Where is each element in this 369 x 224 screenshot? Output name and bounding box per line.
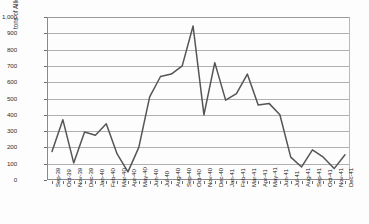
y-tick-label-600: 600 — [0, 79, 17, 85]
x-tick-label-Jun-41: Jun-41 — [282, 169, 289, 187]
x-tick-label-Mar-41: Mar-41 — [250, 168, 257, 187]
x-tick-mark-May-40 — [139, 181, 140, 184]
x-tick-label-Jan-41: Jan-41 — [228, 169, 235, 187]
x-tick-label-Nov-40: Nov-40 — [206, 168, 213, 187]
x-tick-mark-Jun-41 — [280, 181, 281, 184]
x-tick-label-Sep-40: Sep-40 — [185, 168, 192, 187]
x-tick-mark-Oct-40 — [193, 181, 194, 184]
y-tick-label-0: 0 — [0, 177, 17, 183]
x-tick-mark-Nov-41 — [334, 181, 335, 184]
x-tick-label-Dec-41: Dec-41 — [347, 168, 354, 187]
x-tick-label-Jul-40: Jul-40 — [163, 171, 170, 187]
plot-area — [47, 17, 350, 180]
x-tick-mark-Nov-40 — [204, 181, 205, 184]
y-tick-label-900: 900 — [0, 30, 17, 36]
x-tick-label-Sep-41: Sep-41 — [315, 168, 322, 187]
x-tick-label-Dec-40: Dec-40 — [217, 168, 224, 187]
x-tick-label-Nov-41: Nov-41 — [337, 168, 344, 187]
x-tick-mark-Oct-39 — [63, 181, 64, 184]
y-tick-label-800: 800 — [0, 47, 17, 53]
line-chart: tons of Allied and neutral shipping sunk… — [0, 0, 369, 224]
x-tick-mark-Mar-40 — [117, 181, 118, 184]
x-tick-mark-Jan-40 — [95, 181, 96, 184]
y-tick-label-100: 100 — [0, 161, 17, 167]
x-tick-mark-Apr-40 — [128, 181, 129, 184]
y-tick-label-700: 700 — [0, 63, 17, 69]
x-tick-mark-Mar-41 — [247, 181, 248, 184]
data-series-svg — [47, 17, 350, 180]
x-tick-mark-Dec-40 — [215, 181, 216, 184]
x-tick-mark-Jul-40 — [161, 181, 162, 184]
y-tick-label-300: 300 — [0, 128, 17, 134]
x-tick-label-Aug-41: Aug-41 — [304, 168, 311, 187]
x-tick-label-Jun-40: Jun-40 — [152, 169, 159, 187]
x-tick-label-May-40: May-40 — [141, 167, 148, 187]
x-tick-mark-Jun-40 — [150, 181, 151, 184]
x-tick-label-Apr-41: Apr-41 — [261, 169, 268, 187]
x-tick-mark-Nov-39 — [74, 181, 75, 184]
x-tick-label-Oct-39: Oct-39 — [65, 169, 72, 187]
shipping-losses-line — [52, 26, 345, 172]
x-tick-mark-Dec-39 — [85, 181, 86, 184]
y-tick-label-400: 400 — [0, 112, 17, 118]
x-tick-label-Oct-41: Oct-41 — [326, 169, 333, 187]
x-tick-label-Aug-40: Aug-40 — [174, 168, 181, 187]
y-axis-title-container: tons of Allied and neutral shipping sunk — [18, 17, 30, 180]
x-tick-mark-Sep-41 — [312, 181, 313, 184]
x-tick-label-Nov-39: Nov-39 — [76, 168, 83, 187]
x-tick-label-Mar-40: Mar-40 — [120, 168, 127, 187]
x-tick-mark-May-41 — [269, 181, 270, 184]
x-tick-mark-Apr-41 — [258, 181, 259, 184]
x-tick-label-Jan-40: Jan-40 — [98, 169, 105, 187]
x-tick-label-Jul-41: Jul-41 — [293, 171, 300, 187]
x-tick-mark-Jan-41 — [226, 181, 227, 184]
x-tick-mark-Sep-39 — [52, 181, 53, 184]
x-tick-mark-Jul-41 — [291, 181, 292, 184]
x-tick-label-Sep-39: Sep-39 — [54, 168, 61, 187]
x-tick-mark-Aug-41 — [302, 181, 303, 184]
y-tick-label-1000: 1,000 — [0, 14, 17, 20]
x-tick-mark-Feb-40 — [106, 181, 107, 184]
x-tick-label-Apr-40: Apr-40 — [130, 169, 137, 187]
x-tick-mark-Oct-41 — [323, 181, 324, 184]
x-tick-mark-Dec-41 — [345, 181, 346, 184]
y-tick-label-500: 500 — [0, 96, 17, 102]
y-tick-label-200: 200 — [0, 144, 17, 150]
x-tick-label-Oct-40: Oct-40 — [195, 169, 202, 187]
x-tick-label-Feb-40: Feb-40 — [109, 168, 116, 187]
x-tick-label-Feb-41: Feb-41 — [239, 168, 246, 187]
x-tick-label-Dec-39: Dec-39 — [87, 168, 94, 187]
x-tick-mark-Feb-41 — [236, 181, 237, 184]
x-tick-mark-Aug-40 — [171, 181, 172, 184]
x-axis: Sep-39Oct-39Nov-39Dec-39Jan-40Feb-40Mar-… — [47, 181, 350, 224]
x-tick-mark-Sep-40 — [182, 181, 183, 184]
x-tick-label-May-41: May-41 — [271, 167, 278, 187]
